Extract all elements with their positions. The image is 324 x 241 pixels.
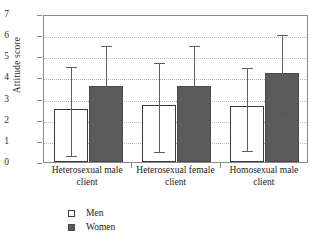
error-bar: [159, 63, 160, 153]
error-bar-cap: [66, 156, 77, 157]
error-bar-cap: [66, 67, 77, 68]
error-bar-cap: [189, 46, 200, 47]
filled-square-icon: [68, 224, 75, 231]
error-bar-cap: [154, 63, 165, 64]
y-axis-tick-label: 2: [0, 116, 9, 125]
y-axis-title: Attitude score: [12, 15, 26, 115]
y-axis-tick-mark: [37, 15, 42, 16]
error-bar: [282, 35, 283, 119]
error-bar: [247, 68, 248, 152]
error-bar-cap: [242, 68, 253, 69]
x-axis-category-label: Heterosexual male client: [43, 165, 131, 188]
y-axis-tick-label: 4: [0, 73, 9, 82]
error-bar: [194, 46, 195, 132]
y-axis-tick-mark: [37, 163, 42, 164]
error-bar-cap: [277, 119, 288, 120]
y-axis-tick-mark: [37, 57, 42, 58]
legend-item: Men: [68, 206, 115, 220]
x-axis-category-label: Homosexual male client: [220, 165, 308, 188]
open-square-icon: [68, 210, 75, 217]
error-bar-cap: [242, 151, 253, 152]
y-axis-tick-label: 3: [0, 95, 9, 104]
error-bar-cap: [277, 35, 288, 36]
error-bar: [71, 67, 72, 156]
bar-series-layer: [44, 16, 307, 162]
y-axis-tick-mark: [37, 100, 42, 101]
y-axis-tick-mark: [37, 36, 42, 37]
error-bar-cap: [101, 131, 112, 132]
error-bar: [106, 46, 107, 132]
error-bar-cap: [101, 46, 112, 47]
y-axis-tick-mark: [37, 121, 42, 122]
plot-area: [43, 15, 308, 163]
y-axis-tick-label: 7: [0, 10, 9, 19]
y-axis-tick-label: 1: [0, 137, 9, 146]
y-axis-tick-label: 5: [0, 52, 9, 61]
attitude-score-bar-chart: Attitude score 01234567 Heterosexual mal…: [0, 0, 324, 241]
y-axis-tick-label: 0: [0, 158, 9, 167]
legend-item-label: Men: [86, 208, 103, 218]
y-axis-tick-mark: [37, 142, 42, 143]
y-axis-tick-label: 6: [0, 31, 9, 40]
error-bar-cap: [189, 131, 200, 132]
y-axis-tick-mark: [37, 78, 42, 79]
chart-legend: MenWomen: [68, 206, 115, 234]
legend-item: Women: [68, 220, 115, 234]
legend-item-label: Women: [86, 222, 115, 232]
error-bar-cap: [154, 152, 165, 153]
x-axis-category-label: Heterosexual female client: [131, 165, 219, 188]
